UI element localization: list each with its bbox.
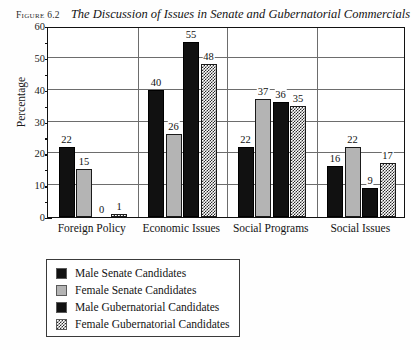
bar[interactable] [273,102,289,217]
legend-item[interactable]: Female Senate Candidates [56,282,239,299]
bar-value-label: 22 [60,134,73,145]
bar-group: 1622917 [317,28,407,217]
bar[interactable] [183,42,199,217]
bar-group: 221501 [48,28,138,217]
bar-value-label: 9 [366,175,373,186]
bar[interactable] [327,166,343,217]
bar[interactable] [166,134,182,217]
bar-value-label: 15 [78,156,91,167]
bar[interactable] [290,106,306,217]
bar[interactable] [238,147,254,217]
legend-label: Female Gubernatorial Candidates [75,318,230,331]
y-tick-label-20: 20 [25,149,45,159]
y-tick-0 [45,218,52,219]
figure-page: Figure 6.2 The Discussion of Issues in S… [0,0,420,350]
y-tick-label-50: 50 [25,54,45,64]
x-axis-label-4: Social Issues [316,221,406,235]
bar[interactable] [362,188,378,217]
y-tick-label-40: 40 [25,86,45,96]
y-axis-title: Percentage [15,57,27,147]
x-axis-label-3: Social Programs [226,221,316,235]
figure-caption: Figure 6.2 The Discussion of Issues in S… [16,4,416,22]
plot-area: 22150140265548223736351622917 [47,27,405,218]
bar-value-label: 26 [167,121,180,132]
legend-item[interactable]: Male Senate Candidates [56,265,239,282]
bar-value-label: 35 [292,93,305,104]
y-tick-label-30: 30 [25,118,45,128]
bar-value-label: 22 [346,134,359,145]
bar-value-label: 36 [274,89,287,100]
legend-swatch-icon [56,302,67,313]
bar[interactable] [255,99,271,217]
x-axis-labels: Foreign PolicyEconomic IssuesSocial Prog… [47,221,405,239]
bar[interactable] [380,163,396,217]
legend-swatch-icon [56,319,67,330]
bar-value-label: 48 [202,51,215,62]
y-tick-label-60: 60 [25,22,45,32]
bar-value-label: 22 [239,134,252,145]
bar-group: 40265548 [138,28,228,217]
bar-value-label: 17 [381,150,394,161]
bar-group: 22373635 [227,28,317,217]
bar-value-label: 40 [150,77,163,88]
bar[interactable] [201,64,217,217]
bar[interactable] [345,147,361,217]
bar-value-label: 37 [257,86,270,97]
x-axis-label-2: Economic Issues [137,221,227,235]
bar-value-label: 55 [185,29,198,40]
bar-value-label: 1 [115,201,122,212]
figure-title: The Discussion of Issues in Senate and G… [71,7,410,21]
legend-label: Male Gubernatorial Candidates [75,301,219,314]
bar[interactable] [111,214,127,217]
figure-number: Figure 6.2 [16,10,60,20]
legend-label: Male Senate Candidates [75,267,186,280]
y-tick-label-10: 10 [25,181,45,191]
legend-swatch-icon [56,268,67,279]
y-tick-label-0: 0 [25,213,45,223]
bar[interactable] [76,169,92,217]
legend-label: Female Senate Candidates [75,284,196,297]
legend-item[interactable]: Female Gubernatorial Candidates [56,316,239,333]
bar-value-label: 0 [98,204,105,215]
bar[interactable] [59,147,75,217]
chart-legend: Male Senate CandidatesFemale Senate Cand… [46,259,240,337]
x-axis-label-1: Foreign Policy [47,221,137,235]
bar-value-label: 16 [329,153,342,164]
legend-swatch-icon [56,285,67,296]
bar[interactable] [148,90,164,217]
legend-item[interactable]: Male Gubernatorial Candidates [56,299,239,316]
